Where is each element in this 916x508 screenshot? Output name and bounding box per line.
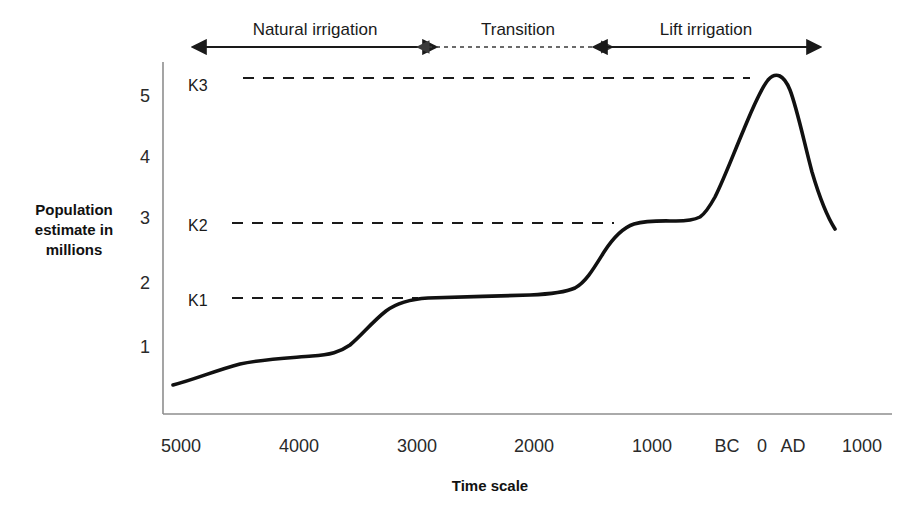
x-tick-label-1000-ad: 1000 <box>842 436 882 456</box>
x-tick-label-5000: 5000 <box>161 436 201 456</box>
x-tick-label-4000: 4000 <box>279 436 319 456</box>
reference-label-k3: K3 <box>188 77 208 94</box>
x-tick-label-3000: 3000 <box>397 436 437 456</box>
reference-label-k1: K1 <box>188 292 208 309</box>
y-tick-label-5: 5 <box>140 86 150 106</box>
y-tick-label-3: 3 <box>140 208 150 228</box>
phase-label-lift-irrigation: Lift irrigation <box>660 20 753 39</box>
x-axis-title: Time scale <box>452 477 528 494</box>
y-tick-label-2: 2 <box>140 273 150 293</box>
x-tick-label-zero: 0 <box>757 436 767 456</box>
x-tick-label-ad: AD <box>780 436 805 456</box>
population-curve-figure: Natural irrigation Transition Lift irrig… <box>0 0 916 508</box>
y-axis-title: Population estimate in millions <box>35 201 113 258</box>
reference-label-k2: K2 <box>188 217 208 234</box>
y-tick-label-1: 1 <box>140 337 150 357</box>
x-tick-label-2000: 2000 <box>514 436 554 456</box>
x-tick-label-1000: 1000 <box>632 436 672 456</box>
x-tick-label-bc: BC <box>714 436 739 456</box>
phase-label-transition: Transition <box>481 20 555 39</box>
phase-label-natural-irrigation: Natural irrigation <box>253 20 378 39</box>
y-axis-title-line-2: estimate in <box>35 221 113 238</box>
y-tick-label-4: 4 <box>140 147 150 167</box>
y-axis-title-line-1: Population <box>35 201 113 218</box>
y-axis-title-line-3: millions <box>46 241 103 258</box>
